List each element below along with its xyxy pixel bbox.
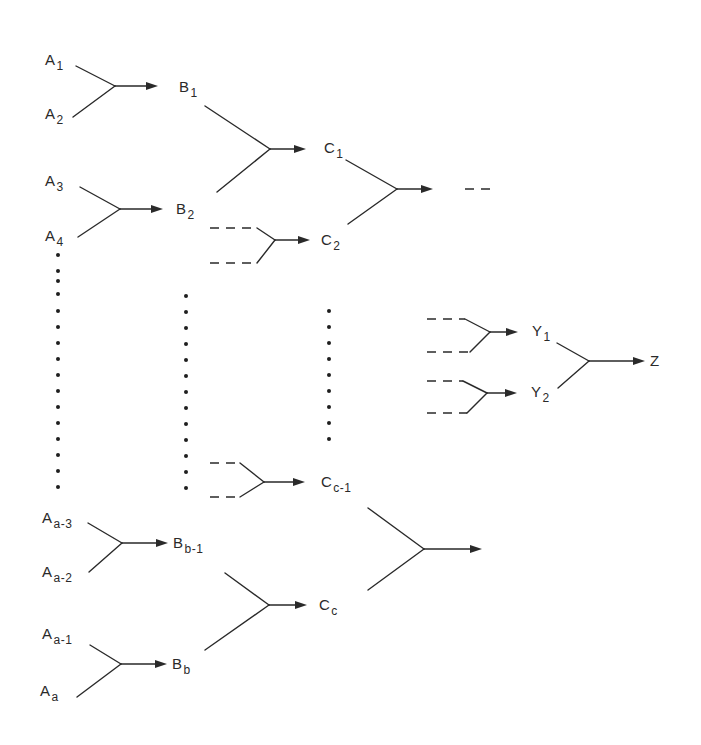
- node-subscript: 3: [57, 180, 64, 194]
- node-label-z: Z: [650, 353, 660, 368]
- merge-line-top: [76, 66, 115, 86]
- node-base: C: [319, 596, 330, 613]
- node-label-b1: B1: [179, 79, 198, 94]
- merge-line-top: [90, 645, 121, 664]
- merge-line-bottom: [240, 482, 264, 497]
- node-label-aa: Aa: [40, 683, 59, 698]
- node-base: Y: [531, 383, 542, 400]
- ellipsis-dot: [184, 390, 188, 394]
- node-label-bb: Bb: [172, 656, 191, 671]
- node-base: A: [42, 625, 53, 642]
- ellipsis-dot: [184, 310, 188, 314]
- ellipsis-dot: [327, 357, 331, 361]
- merge-line-bottom: [73, 86, 115, 117]
- arrowhead-icon: [293, 478, 305, 486]
- node-label-a3: A3: [45, 173, 64, 188]
- merge-line-bottom: [348, 189, 397, 224]
- node-subscript: c: [331, 604, 338, 618]
- ellipsis-dot: [56, 485, 60, 489]
- ellipsis-dot: [184, 342, 188, 346]
- merge-line-top: [240, 463, 264, 482]
- arrowhead-icon: [506, 328, 518, 336]
- ellipsis-dot: [327, 421, 331, 425]
- merge-C1-C2: [346, 160, 433, 224]
- node-subscript: 2: [188, 208, 195, 222]
- merge-line-bottom: [89, 543, 122, 572]
- node-subscript: 2: [543, 391, 550, 405]
- node-base: C: [321, 231, 332, 248]
- node-base: B: [176, 200, 187, 217]
- node-subscript: b-1: [185, 542, 204, 556]
- ellipsis-dot: [184, 294, 188, 298]
- node-base: Z: [650, 352, 660, 369]
- ellipsis-dot: [327, 309, 331, 313]
- ellipsis-dot: [327, 341, 331, 345]
- merge-tree-diagram: [0, 0, 701, 745]
- node-subscript: a-2: [54, 571, 73, 585]
- ellipsis-dot: [56, 469, 60, 473]
- ellipsis-dot: [56, 405, 60, 409]
- ellipsis-dot: [56, 421, 60, 425]
- merge-to-Cc-1: [210, 463, 305, 497]
- ellipsis-dot: [327, 437, 331, 441]
- merge-line-top: [88, 523, 122, 543]
- merge-to-Y2: [427, 381, 517, 413]
- merge-line-top: [465, 319, 490, 332]
- node-label-a1: A1: [45, 52, 64, 67]
- ellipsis-dot: [184, 422, 188, 426]
- node-base: A: [45, 227, 56, 244]
- node-base: A: [45, 51, 56, 68]
- ellipsis-dot: [56, 292, 60, 296]
- ellipsis-dot: [327, 325, 331, 329]
- ellipsis-dot: [56, 437, 60, 441]
- arrowhead-icon: [156, 539, 168, 547]
- merge-line-bottom: [257, 240, 275, 263]
- arrowhead-icon: [470, 545, 482, 553]
- arrowhead-icon: [155, 660, 167, 668]
- arrowhead-icon: [146, 82, 158, 90]
- arrowhead-icon: [294, 145, 306, 153]
- ellipsis-dot: [184, 358, 188, 362]
- node-label-y1: Y1: [532, 323, 551, 338]
- arrowhead-icon: [298, 236, 310, 244]
- node-base: A: [45, 172, 56, 189]
- arrowhead-icon: [421, 185, 433, 193]
- ellipsis-column-A: [56, 253, 60, 489]
- node-label-y2: Y2: [531, 384, 550, 399]
- arrowhead-icon: [633, 357, 645, 365]
- merge-line-top: [257, 228, 275, 240]
- node-label-cc: Cc: [319, 597, 338, 612]
- ellipsis-dot: [56, 325, 60, 329]
- node-subscript: a: [52, 690, 59, 704]
- node-base: C: [321, 473, 332, 490]
- node-subscript: a-1: [54, 633, 73, 647]
- node-base: A: [45, 105, 56, 122]
- node-base: Y: [532, 322, 543, 339]
- ellipsis-dot: [56, 253, 60, 257]
- ellipsis-dot: [184, 406, 188, 410]
- ellipsis-dot: [56, 309, 60, 313]
- merge-line-bottom: [558, 361, 589, 388]
- node-label-cc-1: Cc-1: [321, 474, 352, 489]
- node-base: B: [173, 534, 184, 551]
- arrowhead-icon: [151, 205, 163, 213]
- merge-line-bottom: [78, 209, 120, 237]
- merge-A1-A2: [73, 66, 158, 117]
- ellipsis-dot: [184, 454, 188, 458]
- merge-line-bottom: [217, 149, 270, 192]
- node-base: A: [42, 563, 53, 580]
- ellipsis-dot: [56, 357, 60, 361]
- merge-line-top: [368, 508, 424, 549]
- arrowhead-icon: [505, 389, 517, 397]
- node-label-aa-1: Aa-1: [42, 626, 72, 641]
- ellipsis-dot: [327, 389, 331, 393]
- ellipsis-dot: [184, 438, 188, 442]
- ellipsis-dot: [56, 389, 60, 393]
- node-subscript: b: [184, 663, 191, 677]
- merge-line-top: [463, 381, 487, 393]
- node-label-bb-1: Bb-1: [173, 535, 203, 550]
- merge-Y1-Y2: [557, 343, 645, 388]
- merge-Bb1-Bb: [205, 573, 307, 650]
- merge-Aa3-Aa2: [88, 523, 168, 572]
- merge-A3-A4: [78, 187, 163, 237]
